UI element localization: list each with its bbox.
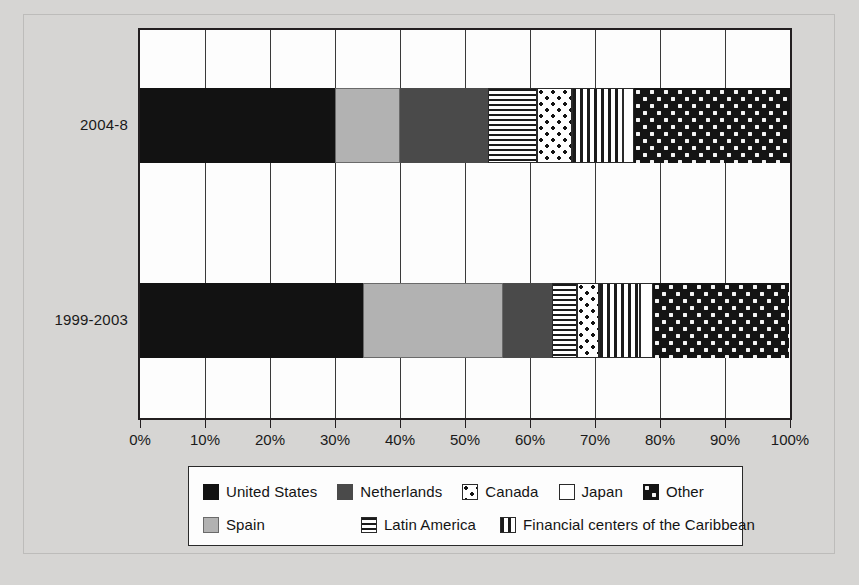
legend-swatch-icon	[203, 484, 219, 500]
legend-item-united-states[interactable]: United States	[203, 483, 317, 500]
x-axis: 0%10%20%30%40%50%60%70%80%90%100%	[138, 420, 792, 454]
bar-segment-other	[653, 283, 789, 358]
x-axis-tick-label-60: 60%	[515, 431, 545, 448]
x-axis-tick-70	[595, 420, 596, 428]
x-axis-tick-10	[205, 420, 206, 428]
x-axis-tick-label-90: 90%	[710, 431, 740, 448]
x-axis-tick-label-20: 20%	[255, 431, 285, 448]
legend-label: Canada	[485, 483, 538, 500]
bar-segment-netherlands	[400, 88, 488, 163]
x-axis-tick-label-40: 40%	[385, 431, 415, 448]
x-axis-tick-30	[335, 420, 336, 428]
legend: United StatesNetherlandsCanadaJapanOther…	[188, 466, 743, 546]
legend-label: Other	[666, 483, 704, 500]
x-axis-tick-80	[660, 420, 661, 428]
bar-segment-canada	[577, 283, 599, 358]
x-axis-tick-label-50: 50%	[450, 431, 480, 448]
bar-segment-united-states	[140, 283, 363, 358]
legend-label: United States	[226, 483, 317, 500]
legend-row-2: SpainLatin AmericaFinancial centers of t…	[203, 508, 732, 541]
legend-label: Japan	[582, 483, 623, 500]
legend-swatch-icon	[361, 517, 377, 533]
bar-segment-spain	[363, 283, 503, 358]
figure: 2004-8 1999-2003 0%10%20%30%40%50%60%70%…	[0, 0, 859, 585]
legend-swatch-icon	[559, 484, 575, 500]
bar-segment-latin-america	[488, 88, 537, 163]
x-axis-tick-label-0: 0%	[129, 431, 151, 448]
legend-row-1: United StatesNetherlandsCanadaJapanOther	[203, 475, 732, 508]
x-axis-tick-0	[140, 420, 141, 428]
legend-swatch-icon	[337, 484, 353, 500]
x-axis-tick-label-30: 30%	[320, 431, 350, 448]
bar-segment-united-states	[140, 88, 335, 163]
legend-item-netherlands[interactable]: Netherlands	[337, 483, 442, 500]
legend-swatch-icon	[462, 484, 478, 500]
legend-swatch-icon	[203, 517, 219, 533]
bar-segment-latin-america	[552, 283, 577, 358]
legend-item-japan[interactable]: Japan	[559, 483, 623, 500]
bar-segment-financial-centers-of-the-caribbean	[572, 88, 623, 163]
y-axis-label-2004-8: 2004-8	[0, 116, 128, 133]
x-axis-tick-label-70: 70%	[580, 431, 610, 448]
legend-label: Netherlands	[360, 483, 442, 500]
bar-segment-netherlands	[503, 283, 552, 358]
x-axis-tick-label-80: 80%	[645, 431, 675, 448]
legend-item-other[interactable]: Other	[643, 483, 704, 500]
legend-item-financial-centers-of-the-caribbean[interactable]: Financial centers of the Caribbean	[500, 516, 755, 533]
legend-label: Financial centers of the Caribbean	[523, 516, 755, 533]
x-axis-tick-100	[790, 420, 791, 428]
bar-segment-japan	[640, 283, 653, 358]
x-axis-tick-20	[270, 420, 271, 428]
bar-segment-other	[634, 88, 790, 163]
legend-item-canada[interactable]: Canada	[462, 483, 538, 500]
x-axis-tick-label-10: 10%	[190, 431, 220, 448]
legend-swatch-icon	[500, 517, 516, 533]
bar-segment-financial-centers-of-the-caribbean	[599, 283, 641, 358]
legend-swatch-icon	[643, 484, 659, 500]
x-axis-tick-40	[400, 420, 401, 428]
legend-item-latin-america[interactable]: Latin America	[361, 516, 476, 533]
legend-item-spain[interactable]: Spain	[203, 516, 265, 533]
x-axis-tick-90	[725, 420, 726, 428]
legend-label: Spain	[226, 516, 265, 533]
bar-segment-canada	[537, 88, 572, 163]
x-axis-tick-50	[465, 420, 466, 428]
legend-label: Latin America	[384, 516, 476, 533]
stacked-bar-2004-8	[140, 88, 790, 163]
x-axis-tick-label-100: 100%	[771, 431, 809, 448]
bar-segment-japan	[623, 88, 634, 163]
x-axis-tick-60	[530, 420, 531, 428]
y-axis-label-1999-2003: 1999-2003	[0, 311, 128, 328]
bar-segment-spain	[335, 88, 400, 163]
plot-area	[138, 28, 792, 420]
stacked-bar-1999-2003	[140, 283, 790, 358]
